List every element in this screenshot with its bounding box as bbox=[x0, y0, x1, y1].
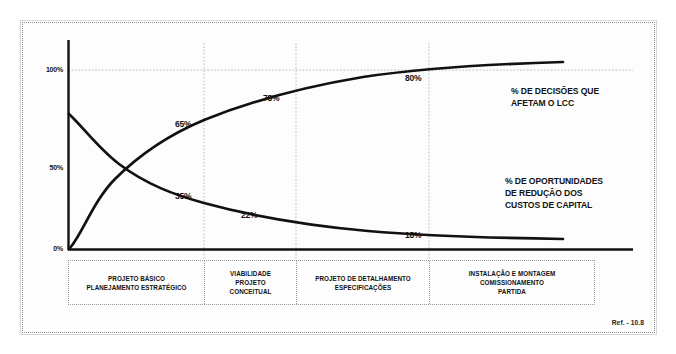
figure-frame: 100% 50% 0% 65% 78% 80% 35% 22% 18% % DE… bbox=[22, 22, 655, 333]
series-oportunidades-curve bbox=[69, 114, 563, 239]
series-label-decisoes-line2: AFETAM O LCC bbox=[511, 97, 599, 109]
data-label-oportunidades-35: 35% bbox=[175, 191, 191, 201]
phase-4-line2: COMISSIONAMENTO bbox=[469, 278, 556, 287]
y-axis-tick-0: 0% bbox=[31, 245, 63, 253]
series-label-oportunidades-line3: CUSTOS DE CAPITAL bbox=[505, 199, 603, 211]
phase-row: PROJETO BÁSICO PLANEJAMENTO ESTRATÉGICO … bbox=[68, 260, 595, 305]
phase-1-line1: PROJETO BÁSICO bbox=[87, 274, 187, 283]
phase-box-instalacao: INSTALAÇÃO E MONTAGEM COMISSIONAMENTO PA… bbox=[430, 261, 594, 304]
data-label-decisoes-80: 80% bbox=[405, 73, 421, 83]
series-label-decisoes-line1: % DE DECISÕES QUE bbox=[511, 85, 599, 97]
phase-box-projeto-basico: PROJETO BÁSICO PLANEJAMENTO ESTRATÉGICO bbox=[69, 261, 205, 304]
phase-box-viabilidade: VIABILIDADE PROJETO CONCEITUAL bbox=[205, 261, 297, 304]
series-decisoes-curve bbox=[69, 62, 563, 249]
data-label-oportunidades-18: 18% bbox=[405, 230, 421, 240]
series-label-oportunidades-line1: % DE OPORTUNIDADES bbox=[505, 175, 603, 187]
data-label-decisoes-65: 65% bbox=[175, 119, 191, 129]
reference-caption: Ref. - 10.8 bbox=[612, 319, 644, 326]
phase-3-line2: ESPECIFICAÇÕES bbox=[315, 283, 411, 292]
phase-2-line1: VIABILIDADE bbox=[230, 269, 272, 278]
phase-4-line3: PARTIDA bbox=[469, 287, 556, 296]
data-label-oportunidades-22: 22% bbox=[241, 210, 257, 220]
phase-4-line1: INSTALAÇÃO E MONTAGEM bbox=[469, 269, 556, 278]
series-label-oportunidades-line2: DE REDUÇÃO DOS bbox=[505, 187, 603, 199]
data-label-decisoes-78: 78% bbox=[263, 93, 279, 103]
y-axis-tick-50: 50% bbox=[31, 164, 63, 172]
series-label-oportunidades: % DE OPORTUNIDADES DE REDUÇÃO DOS CUSTOS… bbox=[505, 175, 603, 211]
phase-1-line2: PLANEJAMENTO ESTRATÉGICO bbox=[87, 283, 187, 292]
phase-2-line3: CONCEITUAL bbox=[230, 287, 272, 296]
series-label-decisoes: % DE DECISÕES QUE AFETAM O LCC bbox=[511, 85, 599, 109]
y-axis-tick-100: 100% bbox=[31, 66, 63, 74]
phase-3-line1: PROJETO DE DETALHAMENTO bbox=[315, 274, 411, 283]
phase-2-line2: PROJETO bbox=[230, 278, 272, 287]
phase-box-detalhamento: PROJETO DE DETALHAMENTO ESPECIFICAÇÕES bbox=[297, 261, 430, 304]
